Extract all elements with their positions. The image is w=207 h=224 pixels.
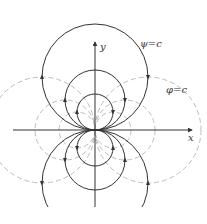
- x-axis-label: x: [188, 132, 194, 143]
- potential-label: φ=c: [166, 84, 187, 95]
- streamline-label: ψ=c: [140, 38, 162, 49]
- y-axis-label: y: [99, 41, 106, 52]
- dipole-flow-diagram: x y ψ=c φ=c: [0, 0, 207, 224]
